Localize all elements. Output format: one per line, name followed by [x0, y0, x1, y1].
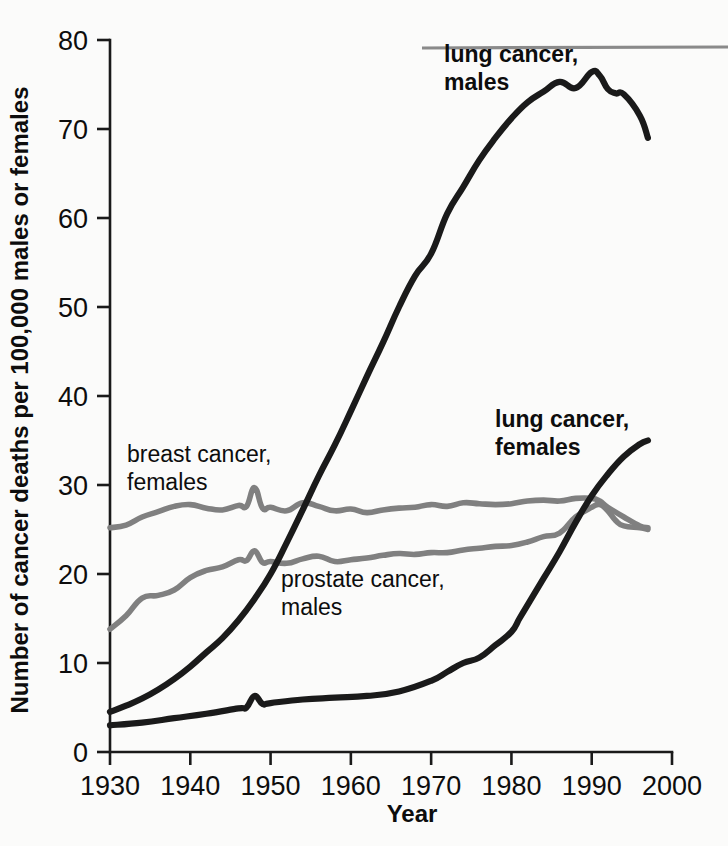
x-axis-title: Year [387, 800, 438, 827]
y-tick-label-20: 20 [58, 560, 88, 590]
x-tick-label-1930: 1930 [80, 771, 140, 801]
annotation-2-line-0: breast cancer, [127, 441, 271, 467]
annotation-0-line-0: lung cancer, [444, 41, 578, 67]
x-tick-label-1960: 1960 [321, 771, 381, 801]
series-line-lung-cancer-males [110, 71, 648, 712]
y-tick-label-10: 10 [58, 649, 88, 679]
y-tick-label-0: 0 [73, 738, 88, 768]
chart-canvas: 01020304050607080 1930194019501960197019… [0, 0, 728, 846]
annotation-3-line-1: males [281, 594, 342, 620]
annotation-2-line-1: females [127, 469, 208, 495]
x-axis-ticks: 19301940195019601970198019902000 [80, 752, 702, 801]
y-tick-label-50: 50 [58, 293, 88, 323]
y-tick-label-40: 40 [58, 382, 88, 412]
x-tick-label-2000: 2000 [642, 771, 702, 801]
annotation-3-line-0: prostate cancer, [281, 566, 445, 592]
annotation-0-line-1: males [444, 69, 509, 95]
cancer-mortality-chart: 01020304050607080 1930194019501960197019… [0, 0, 728, 846]
chart-axes [110, 40, 672, 752]
y-tick-label-60: 60 [58, 204, 88, 234]
y-axis-ticks: 01020304050607080 [58, 26, 110, 768]
y-tick-label-70: 70 [58, 115, 88, 145]
y-tick-label-30: 30 [58, 471, 88, 501]
x-tick-label-1970: 1970 [401, 771, 461, 801]
x-tick-label-1990: 1990 [562, 771, 622, 801]
data-series-group [110, 71, 648, 725]
annotation-1-line-0: lung cancer, [495, 406, 629, 432]
y-axis-title: Number of cancer deaths per 100,000 male… [6, 87, 33, 714]
x-tick-label-1950: 1950 [241, 771, 301, 801]
y-tick-label-80: 80 [58, 26, 88, 56]
x-tick-label-1980: 1980 [481, 771, 541, 801]
x-tick-label-1940: 1940 [160, 771, 220, 801]
annotation-1-line-1: females [495, 434, 581, 460]
